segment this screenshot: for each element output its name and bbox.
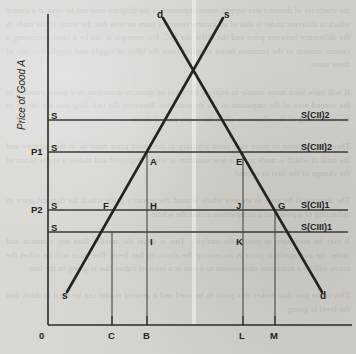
point-label-k: K (236, 236, 243, 247)
x-tick-label-b: B (143, 330, 150, 341)
y-axis-title: Price of Good A (16, 60, 27, 130)
curve-label-s-bottom: s (62, 290, 68, 301)
supply-line-label-sciii1: S(CIII)1 (301, 222, 332, 232)
x-tick-label-c: C (108, 330, 115, 341)
diagram-svg (0, 0, 356, 354)
supply-line-label-sciii2: S(CIII)2 (301, 142, 332, 152)
curve-label-d-top: d (157, 9, 163, 20)
price-label-p2: P2 (31, 204, 43, 215)
point-label-e: E (236, 156, 242, 167)
supply-curve (67, 18, 223, 292)
curve-label-s-top: s (224, 9, 230, 20)
figure-container: the elasticity of demand and supply, som… (0, 0, 356, 354)
supply-marker-s-1: S (51, 110, 57, 121)
x-tick-label-l: L (239, 330, 245, 341)
supply-marker-s-4: S (51, 222, 57, 233)
curve-label-d-bottom: d (320, 290, 326, 301)
point-label-j: J (236, 200, 241, 211)
point-label-g: G (278, 200, 285, 211)
x-tick-label-origin: 0 (39, 330, 44, 341)
supply-line-label-scii2: S(CII)2 (301, 110, 330, 120)
price-label-p1: P1 (31, 146, 43, 157)
x-tick-label-m: M (270, 330, 278, 341)
point-label-h: H (150, 200, 157, 211)
point-label-i: I (150, 236, 153, 247)
point-label-a: A (150, 156, 157, 167)
supply-marker-s-2: S (51, 142, 57, 153)
point-label-f: F (103, 200, 109, 211)
supply-line-label-scii1: S(CII)1 (301, 200, 330, 210)
supply-marker-s-3: S (51, 200, 57, 211)
